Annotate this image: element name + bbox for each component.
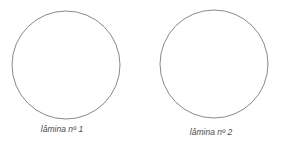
diagram-canvas: lâmina nº 1 lâmina nº 2 — [0, 0, 285, 149]
slide-1-label: lâmina nº 1 — [41, 124, 83, 134]
slide-2-label: lâmina nº 2 — [190, 127, 232, 137]
slide-1-circle — [12, 11, 120, 119]
slide-2-circle — [160, 10, 268, 118]
